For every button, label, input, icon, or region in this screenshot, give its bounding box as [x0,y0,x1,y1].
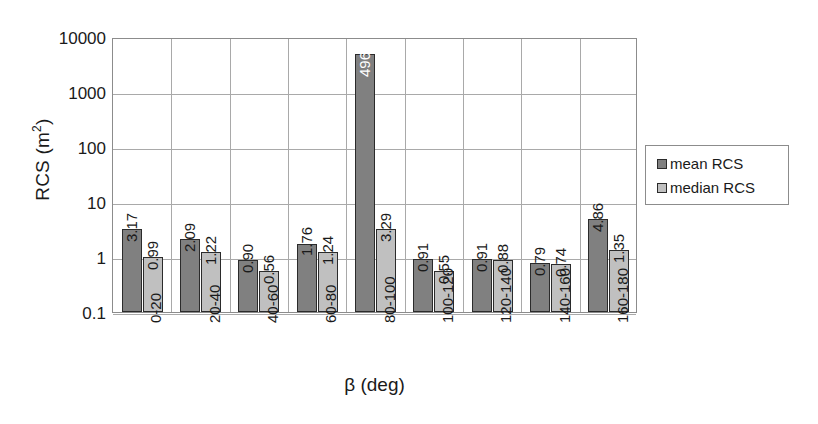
y-axis-tick-label: 1 [30,250,106,267]
x-axis-tick-label: 100-120 [440,268,455,323]
y-axis-tick-label: 1000 [30,85,106,102]
bar-value-label: 4965 [357,43,372,76]
legend-label-mean-rcs: mean RCS [670,155,743,172]
bar-value-label: 1.24 [320,236,335,265]
bar-value-label: 0.91 [415,243,430,272]
gridline-vertical [463,39,464,312]
gridline-vertical [288,39,289,312]
y-axis-tick-label: 10 [30,195,106,212]
gridline-vertical [521,39,522,312]
bar-mean[interactable] [588,219,608,312]
bar-value-label: 0.79 [532,246,547,275]
y-axis-tick-label: 100 [30,140,106,157]
gridline-vertical [171,39,172,312]
gridline-vertical [405,39,406,312]
chart-legend: mean RCS median RCS [645,145,789,205]
x-axis-tick-label: 120-140 [498,268,513,323]
bar-value-label: 0.91 [474,243,489,272]
x-axis-tick-label: 80-100 [382,276,397,323]
bar-value-label: 2.09 [182,223,197,252]
x-axis-tick-label: 60-80 [323,285,338,323]
bar-value-label: 0.90 [240,243,255,272]
bar-value-label: 3.17 [124,213,139,242]
bar-value-label: 1.76 [299,227,314,256]
x-axis-tick-label: 0-20 [148,293,163,323]
legend-label-median-rcs: median RCS [670,179,755,196]
legend-item-median-rcs[interactable]: median RCS [657,179,755,196]
y-axis-tick-label: 10000 [30,30,106,47]
bar-value-label: 0.99 [145,241,160,270]
y-axis-tick-label: 0.1 [30,305,106,322]
x-axis-tick-label: 20-40 [207,285,222,323]
x-axis-tick-label: 40-60 [265,285,280,323]
legend-swatch-median-rcs [657,183,667,193]
x-axis-tick-label: 140-160 [557,268,572,323]
bar-value-label: 4.86 [590,203,605,232]
bar-value-label: 3.29 [378,212,393,241]
bar-value-label: 1.35 [611,234,626,263]
y-axis-tick-labels: 1000010001001010.1 [30,0,106,424]
x-axis-title: β (deg) [112,374,637,396]
legend-item-mean-rcs[interactable]: mean RCS [657,155,743,172]
x-axis-tick-label: 160-180 [615,268,630,323]
gridline-vertical [230,39,231,312]
legend-swatch-mean-rcs [657,159,667,169]
bar-value-label: 0.56 [261,255,276,284]
bar-mean[interactable] [355,54,375,312]
gridline-vertical [346,39,347,312]
bar-value-label: 1.22 [203,236,218,265]
rcs-bar-chart: RCS (m2) 1000010001001010.1 3.170.992.09… [0,0,818,424]
gridline-vertical [580,39,581,312]
